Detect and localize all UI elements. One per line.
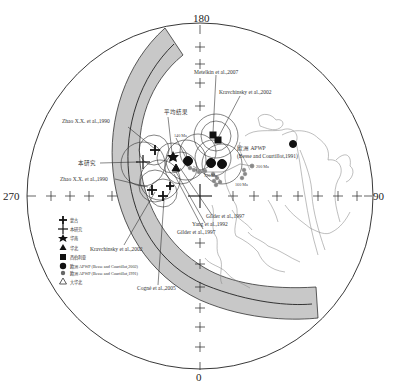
apwp-2002-pole [290, 141, 297, 148]
label-140ma: 140 Ma [174, 133, 187, 138]
label-gilder-1997-b: Gilder et al.,1997 [177, 229, 216, 235]
legend-apwp-1991-icon [61, 271, 65, 275]
label-gilder-1997-a: Gilder et al.,1997 [206, 213, 245, 219]
stereonet-diagram: 180 0 270 90 Zhao X.X. et al.,1990 本研究 Z… [0, 0, 393, 387]
legend-mongolia-icon [59, 216, 67, 224]
legend-label: 华北 [70, 245, 79, 252]
label-kravchinsky-2002-lower: Kravchinsky et al.,2002 [90, 246, 143, 252]
label-zhao-1990-upper: Zhao X.X. et al.,1990 [62, 118, 110, 124]
apwp-2002-pole [218, 160, 227, 169]
axis-label-270: 270 [3, 190, 20, 202]
label-160ma: 160 Ma [235, 182, 248, 187]
label-yang-1992: Yang et al.,1992 [192, 221, 228, 227]
legend-north-china-icon [60, 244, 67, 250]
legend-south-china-icon [58, 234, 68, 242]
axis-label-180: 180 [193, 12, 210, 24]
label-mean-result: 平均结果 [164, 108, 188, 116]
axis-label-0: 0 [196, 371, 202, 383]
legend-greater-north-china-icon [60, 278, 67, 284]
legend-label: 大华北 [70, 279, 83, 286]
apwp-2002-pole [184, 157, 193, 166]
label-200ma: 200 Ma [256, 164, 269, 169]
label-kravchinsky-2002-upper: Kravchinsky et al.,2002 [219, 89, 272, 95]
apwp-2002-pole [207, 159, 216, 168]
legend-siberia-icon [60, 254, 66, 260]
label-europe-apwp: 欧洲 APWP [237, 144, 266, 152]
legend-apwp-2002-icon [60, 263, 66, 269]
axis-label-90: 90 [373, 190, 385, 202]
label-besse-courtillot-1991: (Besse and Courtillot,1991) [237, 153, 298, 160]
coastline-map [205, 114, 353, 288]
legend-this-study-icon [58, 224, 68, 234]
center-cross [188, 184, 212, 208]
legend-label: 欧洲 APWP (Besse and Courtillot,1991) [70, 270, 139, 277]
pole-symbols [172, 132, 297, 171]
label-zhao-1990-lower: Zhao X.X. et al.,1990 [60, 176, 108, 182]
label-130ma: 130 Ma [204, 173, 217, 178]
label-this-study: 本研究 [78, 159, 96, 167]
legend-label: 本研究 [70, 226, 83, 233]
label-cogne-2005: Cogné et al.,2005 [137, 285, 176, 291]
legend-label: 欧洲 APWP (Besse and Courtillot,2002) [70, 263, 139, 270]
legend-label: 西伯利亚 [70, 254, 86, 261]
legend-label: 蒙古 [70, 217, 78, 224]
legend-label: 华南 [70, 235, 78, 242]
label-metelkin-2007: Metelkin et al.,2007 [194, 69, 239, 75]
